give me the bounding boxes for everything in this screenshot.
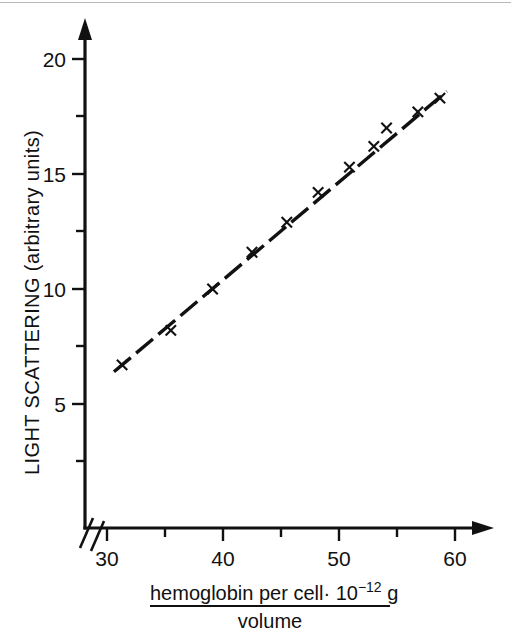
- trend-line: [114, 91, 447, 372]
- data-point-marker: [282, 217, 292, 227]
- y-tick-label-10: 10: [43, 278, 66, 301]
- data-point-marker: [369, 141, 379, 151]
- data-point-marker: [207, 284, 217, 294]
- y-tick-label-20: 20: [43, 48, 66, 71]
- y-axis-group: 20 15 10 5 LIGHT SCATTERING (arbitrary u…: [21, 18, 92, 528]
- light-scattering-scatter-chart: 20 15 10 5 LIGHT SCATTERING (arbitrary u…: [0, 0, 511, 632]
- x-tick-label-40: 40: [211, 547, 234, 570]
- x-tick-label-60: 60: [443, 547, 466, 570]
- x-axis-arrowhead: [472, 521, 494, 535]
- x-axis-title-numerator-factor: · 10: [323, 582, 357, 604]
- x-axis-title-denominator: volume: [238, 610, 302, 632]
- data-point-marker: [381, 123, 391, 133]
- x-axis-title-unit: g: [382, 582, 399, 604]
- x-tick-label-30: 30: [95, 547, 118, 570]
- x-axis-title-fraction: hemoglobin per cell· 10−12 g volume: [150, 579, 398, 632]
- x-axis-title-numerator-text: hemoglobin per cell: [150, 582, 323, 604]
- data-point-marker: [166, 325, 176, 335]
- x-axis-title-numerator: hemoglobin per cell· 10−12 g: [150, 579, 398, 604]
- data-point-marker: [117, 360, 127, 370]
- data-point-marker: [313, 187, 323, 197]
- figure-page: 20 15 10 5 LIGHT SCATTERING (arbitrary u…: [0, 0, 511, 632]
- x-tick-label-50: 50: [327, 547, 350, 570]
- y-axis-arrowhead: [78, 18, 92, 40]
- data-point-marker: [344, 162, 354, 172]
- data-series-layer: [114, 91, 447, 372]
- x-axis-title-exponent: −12: [358, 579, 382, 595]
- y-tick-label-15: 15: [43, 163, 66, 186]
- x-axis-group: 30 40 50 60: [80, 518, 494, 570]
- y-tick-label-5: 5: [54, 393, 66, 416]
- y-axis-title: LIGHT SCATTERING (arbitrary units): [21, 130, 43, 475]
